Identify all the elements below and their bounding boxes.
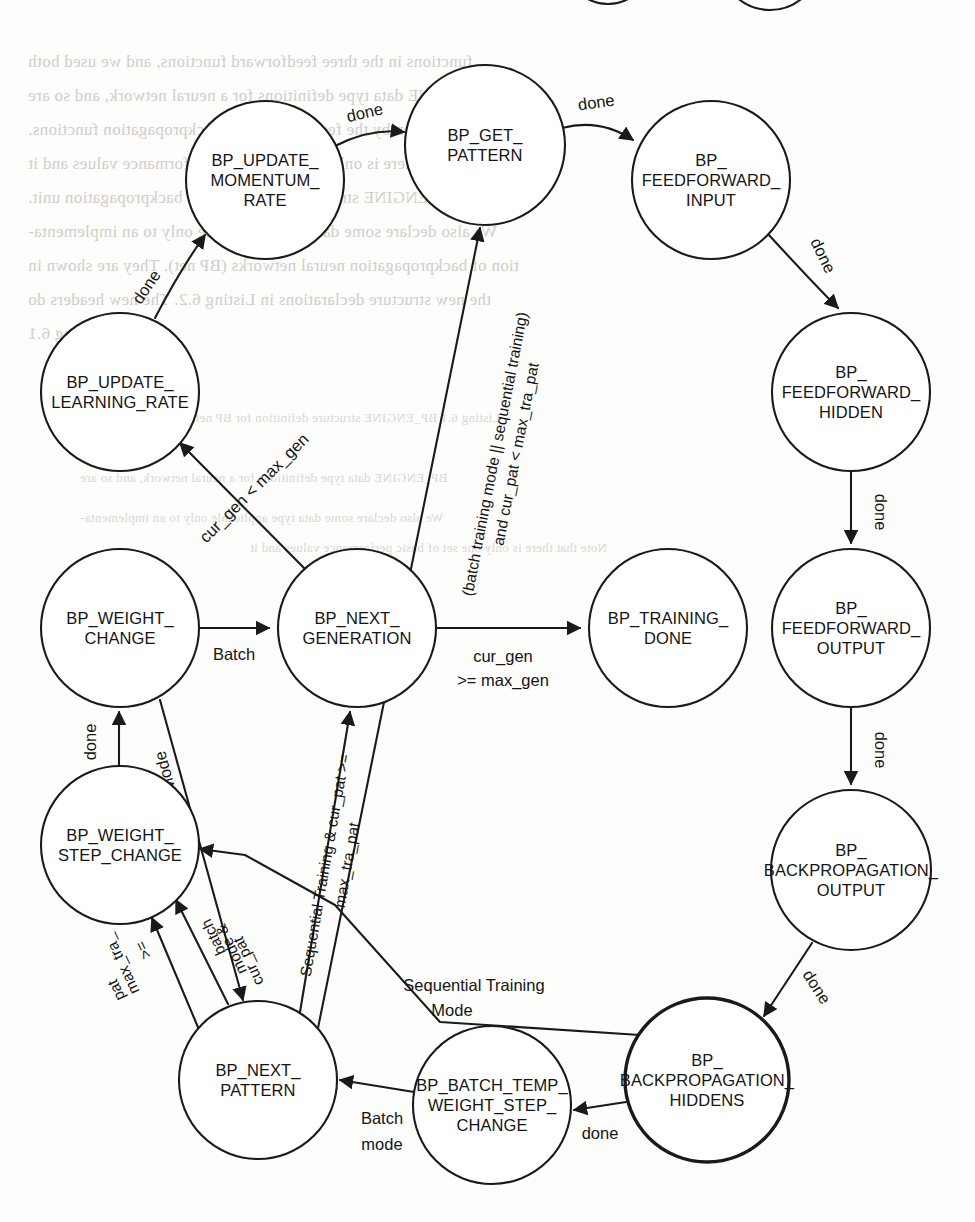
- edge-bphiddens-to-batchtemp: done: [574, 1102, 626, 1142]
- edge-label: done: [582, 1124, 619, 1142]
- state-node-ff_hidden[interactable]: BP_FEEDFORWARD_HIDDEN: [772, 313, 930, 471]
- edge-label: done: [81, 724, 99, 761]
- partial-node-top: [566, 0, 820, 10]
- state-node-get_pattern[interactable]: BP_GET_PATTERN: [405, 65, 565, 225]
- edge-updatelearning-to-updatemomentum: done: [128, 235, 205, 318]
- edge-bpoutput-to-bphiddens: done: [764, 943, 835, 1016]
- diagram-page: functions in the three feedforward funct…: [0, 0, 975, 1222]
- state-node-training_done[interactable]: BP_TRAINING_DONE: [589, 549, 747, 707]
- edge-label: done: [872, 732, 890, 769]
- state-node-next_pattern[interactable]: BP_NEXT_PATTERN: [179, 1001, 337, 1159]
- state-node-circle: [179, 1001, 337, 1159]
- edge-label: >=: [131, 939, 154, 963]
- state-node-batch_temp[interactable]: BP_BATCH_TEMP_WEIGHT_STEP_CHANGE: [413, 1026, 571, 1184]
- state-node-circle: [278, 549, 436, 707]
- edge-label: done: [799, 966, 834, 1007]
- edge-nextpattern-to-weightstep-b: max_tra_ >= pat: [100, 918, 200, 1032]
- edge-ffoutput-to-bpoutput: done: [851, 708, 890, 784]
- edge-label: cur_gen: [473, 647, 533, 666]
- state-node-update_learning[interactable]: BP_UPDATE_LEARNING_RATE: [41, 313, 199, 471]
- edge-label: done: [807, 235, 839, 276]
- edge-label: done: [872, 494, 890, 531]
- edge-ffinput-to-ffhidden: done: [768, 234, 840, 308]
- edge-label: mode: [361, 1135, 402, 1153]
- state-node-ff_input[interactable]: BP_FEEDFORWARD_INPUT: [632, 101, 790, 259]
- edge-ffhidden-to-ffoutput: done: [851, 472, 890, 543]
- state-node-circle: [589, 549, 747, 707]
- edge-label: Batch: [213, 645, 255, 663]
- state-node-label: BP_UPDATE_LEARNING_RATE: [51, 373, 189, 412]
- state-node-circle: [41, 549, 199, 707]
- edge-label: Batch: [361, 1109, 403, 1127]
- edge-batchtemp-to-nextpattern: Batch mode: [340, 1080, 414, 1153]
- state-node-circle: [41, 766, 199, 924]
- edge-momentum-to-getpattern: done: [335, 99, 404, 146]
- state-node-bp_hiddens[interactable]: BP_BACKPROPAGATION_HIDDENS: [620, 998, 795, 1162]
- edge-nextgeneration-to-trainingdone: cur_gen >= max_gen: [437, 628, 580, 690]
- edge-label: >= max_gen: [457, 671, 549, 690]
- state-machine-diagram: done done done done done done: [0, 0, 975, 1222]
- state-node-weight_change[interactable]: BP_WEIGHT_CHANGE: [41, 549, 199, 707]
- state-node-ff_output[interactable]: BP_FEEDFORWARD_OUTPUT: [772, 549, 930, 707]
- state-node-circle: [405, 65, 565, 225]
- edge-getpattern-to-ffinput: done: [562, 91, 633, 140]
- nodes-layer: BP_GET_PATTERNBP_UPDATE_MOMENTUM_RATEBP_…: [41, 65, 939, 1184]
- edge-label: Sequential Training: [403, 976, 544, 994]
- edge-label: done: [128, 266, 163, 307]
- edge-weightchange-to-nextgeneration: Batch: [200, 628, 269, 663]
- edge-nextgeneration-to-updatelearning: cur_gen < max_gen: [180, 430, 313, 572]
- state-node-update_momentum[interactable]: BP_UPDATE_MOMENTUM_RATE: [186, 101, 344, 259]
- state-node-circle: [41, 313, 199, 471]
- edge-nextpattern-to-weightstep-a: batch mode & cur_pat: [176, 900, 267, 1004]
- edge-label: done: [345, 99, 385, 125]
- state-node-weight_step[interactable]: BP_WEIGHT_STEP_CHANGE: [41, 766, 199, 924]
- edge-label: cur_gen < max_gen: [196, 430, 313, 547]
- state-node-label: BP_WEIGHT_STEP_CHANGE: [58, 826, 182, 865]
- edge-label: done: [577, 91, 616, 114]
- edge-weightstep-to-weightchange: done: [81, 712, 119, 766]
- edge-label: Mode: [431, 1001, 472, 1019]
- state-node-next_generation[interactable]: BP_NEXT_GENERATION: [278, 549, 436, 707]
- state-node-bp_output[interactable]: BP_BACKPROPAGATION_OUTPUT: [764, 790, 939, 950]
